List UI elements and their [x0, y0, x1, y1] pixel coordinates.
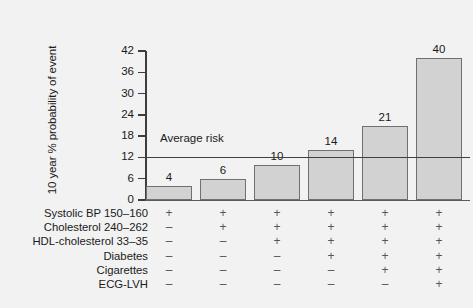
- risk-factor-mark: –: [267, 277, 287, 291]
- x-axis-line: [145, 200, 470, 201]
- table-row: HDL-cholesterol 33–35––++++: [0, 234, 473, 248]
- risk-factor-mark: +: [213, 206, 233, 220]
- risk-factor-mark: –: [159, 234, 179, 248]
- risk-factor-mark: +: [321, 206, 341, 220]
- bar: [200, 179, 246, 200]
- risk-factor-mark: +: [429, 263, 449, 277]
- risk-factor-mark: –: [159, 220, 179, 234]
- risk-factor-mark: +: [375, 220, 395, 234]
- risk-factor-mark: +: [375, 263, 395, 277]
- y-axis-tick-label: 0: [100, 194, 134, 206]
- risk-factor-label: Diabetes: [0, 249, 148, 263]
- risk-factor-mark: +: [321, 220, 341, 234]
- bar-value-label: 14: [298, 136, 364, 148]
- risk-factor-mark: +: [267, 206, 287, 220]
- risk-factor-label: Systolic BP 150–160: [0, 206, 148, 220]
- bar: [146, 186, 192, 200]
- risk-factor-mark: –: [213, 234, 233, 248]
- risk-factor-mark: –: [159, 263, 179, 277]
- risk-factor-mark: +: [429, 277, 449, 291]
- y-axis-tick-label: 30: [100, 88, 134, 100]
- risk-factor-mark: +: [375, 234, 395, 248]
- risk-factor-mark: +: [375, 206, 395, 220]
- risk-factor-mark: –: [159, 277, 179, 291]
- table-row: Systolic BP 150–160++++++: [0, 206, 473, 220]
- risk-factor-mark: –: [159, 249, 179, 263]
- table-row: Cholesterol 240–262–+++++: [0, 220, 473, 234]
- risk-factor-label: Cholesterol 240–262: [0, 220, 148, 234]
- table-row: ECG-LVH–––––+: [0, 277, 473, 291]
- risk-factor-mark: +: [429, 220, 449, 234]
- risk-factor-label: Cigarettes: [0, 263, 148, 277]
- average-risk-line: [145, 157, 470, 159]
- risk-factor-table: Systolic BP 150–160++++++Cholesterol 240…: [0, 206, 473, 291]
- risk-factor-mark: +: [159, 206, 179, 220]
- bar: [254, 165, 300, 200]
- table-row: Cigarettes––––++: [0, 263, 473, 277]
- risk-factor-mark: –: [213, 249, 233, 263]
- risk-factor-mark: +: [321, 249, 341, 263]
- bar-value-label: 40: [406, 44, 472, 56]
- risk-factor-mark: –: [267, 249, 287, 263]
- y-axis-title: 10 year % probability of event: [46, 20, 58, 220]
- risk-factor-mark: +: [429, 206, 449, 220]
- risk-factor-mark: –: [267, 263, 287, 277]
- table-row: Diabetes–––+++: [0, 249, 473, 263]
- risk-chart-figure: 10 year % probability of event 061218243…: [0, 0, 473, 308]
- risk-factor-mark: +: [429, 249, 449, 263]
- bar-value-label: 6: [190, 165, 256, 177]
- bar-value-label: 21: [352, 112, 418, 124]
- risk-factor-label: HDL-cholesterol 33–35: [0, 234, 148, 248]
- risk-factor-mark: –: [321, 277, 341, 291]
- bar: [416, 58, 462, 200]
- risk-factor-mark: –: [213, 277, 233, 291]
- y-axis-tick-label: 18: [100, 130, 134, 142]
- y-axis-tick-label: 42: [100, 45, 134, 57]
- risk-factor-mark: +: [375, 249, 395, 263]
- y-axis-tick-label: 12: [100, 151, 134, 163]
- average-risk-label: Average risk: [160, 132, 224, 144]
- bar: [362, 126, 408, 201]
- risk-factor-mark: –: [321, 263, 341, 277]
- risk-factor-mark: +: [267, 234, 287, 248]
- y-axis-tick-label: 36: [100, 66, 134, 78]
- risk-factor-mark: –: [213, 263, 233, 277]
- risk-factor-mark: –: [375, 277, 395, 291]
- risk-factor-label: ECG-LVH: [0, 277, 148, 291]
- risk-factor-mark: +: [321, 234, 341, 248]
- risk-factor-mark: +: [429, 234, 449, 248]
- y-axis-tick-label: 24: [100, 109, 134, 121]
- risk-factor-mark: +: [213, 220, 233, 234]
- y-axis-tick-label: 6: [100, 173, 134, 185]
- risk-factor-mark: +: [267, 220, 287, 234]
